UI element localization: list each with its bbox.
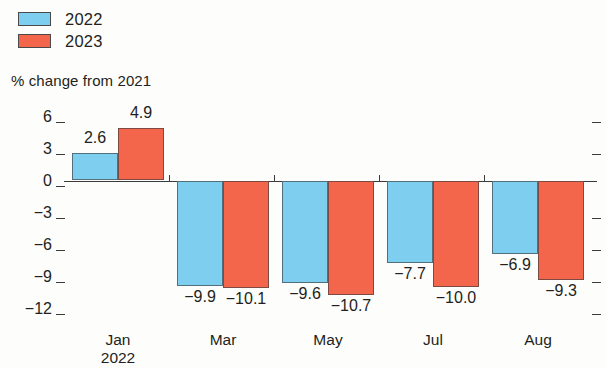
bar-value-label: −10.1 <box>226 290 266 308</box>
y-axis-tick-label: 0 <box>0 172 52 190</box>
bar-value-label: −9.9 <box>184 288 216 306</box>
x-axis-tick-mark <box>169 175 170 182</box>
bar-2023-Mar <box>223 181 269 289</box>
y-axis-tick-label: 3 <box>0 140 52 158</box>
x-axis-category-label: Jan2022 <box>101 331 135 367</box>
bar-2022-Jul <box>387 181 433 263</box>
x-axis-category-label-line1: Aug <box>524 331 552 349</box>
y-axis-tick-mark-right <box>592 154 601 156</box>
y-axis-tick-label: 6 <box>0 108 52 126</box>
bar-2022-Jan <box>72 153 118 181</box>
x-axis-category-label: Jul <box>423 331 443 349</box>
x-axis-category-label-line1: Jan <box>101 331 135 349</box>
y-axis-tick-mark <box>56 218 65 220</box>
y-axis-tick-mark-right <box>592 314 601 316</box>
y-axis-tick-label: −3 <box>0 204 52 222</box>
bar-2023-May <box>328 181 374 295</box>
x-axis-tick-mark <box>484 175 485 182</box>
y-axis-tick-mark <box>56 314 65 316</box>
bar-value-label: −10.0 <box>436 289 476 307</box>
y-axis-tick-label: −12 <box>0 300 52 318</box>
bar-chart: 2022 2023 % change from 2021 630−3−6−9−1… <box>0 0 606 368</box>
x-axis-category-label-line1: May <box>313 331 342 349</box>
y-axis-tick-label: −9 <box>0 268 52 286</box>
bar-value-label: −9.6 <box>289 285 321 303</box>
x-axis-category-label: Aug <box>524 331 552 349</box>
x-axis-tick-mark <box>274 175 275 182</box>
x-axis-category-label: Mar <box>210 331 237 349</box>
y-axis-tick-mark-right <box>592 282 601 284</box>
y-axis-tick-label: −6 <box>0 236 52 254</box>
bar-2022-Mar <box>177 181 223 287</box>
x-axis-category-label-line1: Mar <box>210 331 237 349</box>
bar-2023-Aug <box>538 181 584 280</box>
y-axis-tick-mark <box>56 122 65 124</box>
y-axis-tick-mark <box>56 154 65 156</box>
y-axis-tick-mark-right <box>592 122 601 124</box>
bar-value-label: −10.7 <box>331 297 371 315</box>
bar-value-label: 4.9 <box>130 104 152 122</box>
bar-2023-Jul <box>433 181 479 288</box>
x-axis-category-label-line1: Jul <box>423 331 443 349</box>
y-axis-tick-mark <box>56 250 65 252</box>
bar-value-label: −7.7 <box>394 265 426 283</box>
x-axis-category-label: May <box>313 331 342 349</box>
x-axis-category-label-line2: 2022 <box>101 349 135 367</box>
y-axis-tick-mark <box>56 186 65 188</box>
y-axis-tick-mark <box>56 282 65 284</box>
bar-2023-Jan <box>118 128 164 180</box>
bar-value-label: 2.6 <box>84 129 106 147</box>
x-axis-tick-mark <box>379 175 380 182</box>
plot-area: 630−3−6−9−122.6−9.9−9.6−7.7−6.94.9−10.1−… <box>0 0 606 368</box>
bar-value-label: −6.9 <box>499 256 531 274</box>
y-axis-tick-mark-right <box>592 218 601 220</box>
y-axis-tick-mark-right <box>592 250 601 252</box>
bar-2022-Aug <box>492 181 538 255</box>
bar-2022-May <box>282 181 328 283</box>
bar-value-label: −9.3 <box>545 282 577 300</box>
